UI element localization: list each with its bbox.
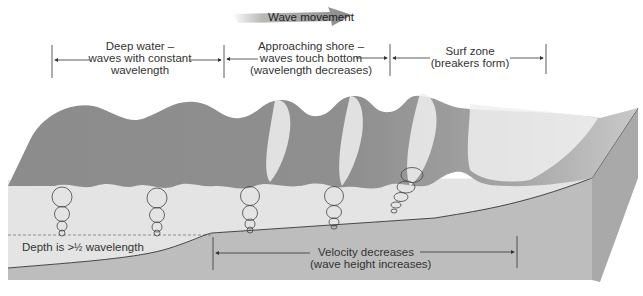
velocity-label-line: (wave height increases) — [310, 258, 422, 270]
zone-label-deep-water: Deep water – waves with constant wavelen… — [88, 40, 192, 76]
zone-label-line: (breakers form) — [428, 57, 512, 69]
velocity-label-line: Velocity decreases — [310, 246, 422, 258]
zone-label-line: Approaching shore – — [245, 40, 377, 52]
zone-label-line: (wavelength decreases) — [245, 64, 377, 76]
zone-label-line: Surf zone — [428, 45, 512, 57]
zone-label-line: waves touch bottom — [245, 52, 377, 64]
velocity-label: Velocity decreases (wave height increase… — [310, 246, 422, 270]
depth-label-prefix: Depth is > — [22, 241, 74, 253]
zone-label-surf-zone: Surf zone (breakers form) — [428, 45, 512, 69]
wave-movement-label: Wave movement — [268, 11, 354, 23]
zone-label-approaching-shore: Approaching shore – waves touch bottom (… — [245, 40, 377, 76]
depth-label-suffix: wavelength — [82, 241, 143, 253]
zone-label-line: wavelength — [88, 64, 192, 76]
depth-label: Depth is >½ wavelength — [22, 241, 144, 254]
zone-label-line: waves with constant — [88, 52, 192, 64]
zone-label-line: Deep water – — [88, 40, 192, 52]
